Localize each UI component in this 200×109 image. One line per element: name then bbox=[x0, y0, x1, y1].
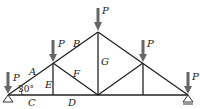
member-label-c: C bbox=[28, 97, 36, 108]
member-label-d: D bbox=[67, 97, 76, 108]
load-label: P bbox=[146, 38, 154, 49]
member-label-g: G bbox=[101, 56, 109, 67]
right-diagonal bbox=[98, 63, 143, 95]
load-arrow-icon bbox=[94, 8, 102, 31]
load-arrow-icon bbox=[184, 72, 192, 94]
load-arrow-icon bbox=[49, 40, 57, 62]
member-label-e: E bbox=[44, 79, 53, 90]
right-support-icon bbox=[183, 95, 193, 104]
member-label-f: F bbox=[72, 68, 81, 79]
load-label: P bbox=[191, 71, 199, 82]
truss-members bbox=[8, 32, 188, 95]
load-arrow-icon bbox=[4, 72, 12, 94]
load-label: P bbox=[12, 72, 20, 83]
left-support-icon bbox=[3, 95, 13, 102]
load-label: P bbox=[101, 5, 109, 16]
load-label: P bbox=[57, 38, 65, 49]
member-label-b: B bbox=[72, 38, 80, 49]
angle-label: 30° bbox=[18, 84, 34, 94]
load-arrow-icon bbox=[139, 40, 147, 62]
truss-diagram: 30° P P P P P A B C D E F G bbox=[0, 0, 200, 109]
member-label-a: A bbox=[28, 66, 36, 77]
